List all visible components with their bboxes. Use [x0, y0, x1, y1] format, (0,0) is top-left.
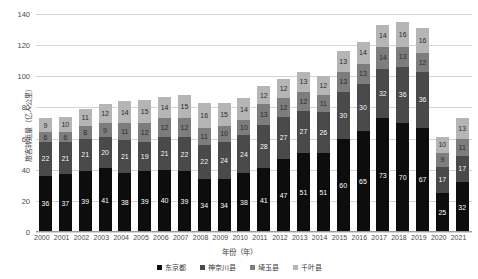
bar-value-label: 24	[220, 157, 228, 164]
legend-label: 东京都	[165, 262, 186, 272]
bar-value-label: 39	[81, 198, 89, 205]
x-tick-label: 2005	[133, 234, 146, 246]
y-tick-label: 140	[4, 10, 30, 19]
legend-swatch-icon	[157, 265, 162, 270]
bar-segment: 11	[456, 139, 469, 156]
bar-segment: 25	[436, 193, 449, 232]
bar-value-label: 12	[181, 124, 189, 131]
bar-value-label: 51	[319, 189, 327, 196]
bar-value-label: 9	[440, 156, 444, 163]
bar-segment: 24	[218, 142, 231, 179]
bar-segment: 11	[118, 123, 131, 140]
bar-value-label: 22	[181, 151, 189, 158]
y-tick-label: 60	[4, 134, 30, 143]
bar-value-label: 13	[399, 53, 407, 60]
bar-value-label: 26	[319, 129, 327, 136]
bar-segment: 14	[376, 25, 389, 47]
bar-value-label: 21	[61, 155, 69, 162]
legend-label: 千叶县	[301, 262, 322, 272]
bar-column: 15122239	[178, 14, 191, 232]
bar-segment: 70	[396, 123, 409, 232]
bar-value-label: 11	[459, 144, 466, 151]
legend-item[interactable]: 神奈川县	[200, 262, 236, 272]
bar-segment: 16	[416, 28, 429, 53]
bar-segment: 9	[436, 153, 449, 167]
bar-column: 13111732	[456, 14, 469, 232]
y-tick-label: 0	[4, 228, 30, 237]
bar-segment: 11	[317, 95, 330, 112]
bar-segment: 40	[158, 170, 171, 232]
bar-segment: 30	[357, 84, 370, 131]
bar-value-label: 9	[44, 122, 48, 129]
legend-item[interactable]: 千叶县	[293, 262, 322, 272]
bar-segment: 13	[297, 72, 310, 92]
bar-segment: 21	[158, 137, 171, 170]
bar-value-label: 22	[200, 158, 208, 165]
bar-segment: 12	[178, 118, 191, 137]
bar-segment: 41	[257, 168, 270, 232]
bar-value-label: 30	[339, 112, 347, 119]
x-tick-label: 2020	[431, 234, 444, 246]
bar-column: 14102438	[237, 14, 250, 232]
bar-value-label: 32	[379, 90, 387, 97]
bar-segment: 32	[376, 69, 389, 119]
bar-segment: 11	[198, 128, 211, 145]
bar-column: 16123667	[416, 14, 429, 232]
x-axis-line	[36, 231, 472, 232]
legend-swatch-icon	[200, 265, 205, 270]
bar-segment: 12	[138, 123, 151, 142]
bar-value-label: 36	[419, 96, 427, 103]
x-tick-label: 2009	[213, 234, 226, 246]
legend-item[interactable]: 埼玉县	[250, 262, 279, 272]
bar-value-label: 14	[161, 104, 169, 111]
bar-column: 13133060	[337, 14, 350, 232]
bar-column: 15102434	[218, 14, 231, 232]
bar-value-label: 40	[161, 197, 169, 204]
bar-segment: 12	[99, 104, 112, 123]
legend-label: 埼玉县	[258, 262, 279, 272]
bar-value-label: 65	[359, 178, 367, 185]
bar-value-label: 73	[379, 172, 387, 179]
bar-segment: 36	[39, 176, 52, 232]
y-tick-label: 40	[4, 165, 30, 174]
bar-value-label: 11	[201, 133, 208, 140]
bar-segment: 22	[39, 142, 52, 176]
x-tick-label: 2013	[292, 234, 305, 246]
plot-area: 9622361062137118213912920411411213815121…	[36, 14, 472, 232]
bar-value-label: 51	[300, 189, 308, 196]
bar-segment: 12	[317, 76, 330, 95]
bar-value-label: 39	[181, 198, 189, 205]
bars-container: 9622361062137118213912920411411213815121…	[36, 14, 472, 232]
x-tick-label: 2001	[54, 234, 67, 246]
bar-segment: 10	[436, 137, 449, 153]
bar-segment: 12	[158, 118, 171, 137]
bar-value-label: 6	[63, 134, 67, 141]
bar-segment: 16	[396, 22, 409, 47]
bar-segment: 47	[277, 159, 290, 232]
bar-segment: 10	[237, 120, 250, 136]
bar-value-label: 12	[260, 92, 268, 99]
bar-value-label: 10	[240, 124, 248, 131]
bar-value-label: 12	[280, 85, 288, 92]
x-tick-label: 2018	[391, 234, 404, 246]
bar-segment: 51	[297, 153, 310, 232]
gridline	[36, 232, 472, 233]
bar-segment: 34	[198, 179, 211, 232]
bar-value-label: 14	[240, 106, 248, 113]
bar-value-label: 34	[220, 202, 228, 209]
bar-segment: 38	[118, 173, 131, 232]
bar-segment: 39	[79, 171, 92, 232]
bar-value-label: 14	[359, 49, 367, 56]
bar-value-label: 47	[280, 192, 288, 199]
bar-value-label: 32	[458, 204, 466, 211]
x-tick-label: 2019	[411, 234, 424, 246]
bar-value-label: 39	[141, 198, 149, 205]
bar-value-label: 11	[320, 100, 327, 107]
legend-item[interactable]: 东京都	[157, 262, 186, 272]
x-tick-label: 2011	[252, 234, 265, 246]
bar-segment: 13	[396, 47, 409, 67]
bar-segment: 27	[297, 111, 310, 153]
bar-value-label: 14	[121, 109, 129, 116]
bar-value-label: 28	[260, 143, 268, 150]
bar-value-label: 12	[141, 129, 149, 136]
